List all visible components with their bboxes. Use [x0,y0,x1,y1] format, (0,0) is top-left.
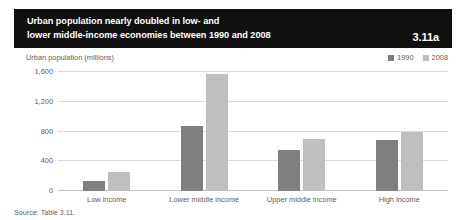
bar-1990 [181,126,203,191]
bar-groups [58,72,448,191]
x-axis-labels: Low incomeLower middle incomeUpper middl… [58,195,448,204]
figure-number: 3.11a [413,31,439,43]
y-axis-tick-label: 0 [49,186,53,195]
bar-2008 [206,74,228,192]
bar-group [156,72,254,191]
bar-group [58,72,156,191]
legend-label-2008: 2008 [432,53,448,62]
bar-chart: Urban population (millions) 1990 2008 04… [14,48,452,200]
y-axis-tick-label: 1,200 [35,96,54,105]
bar-group [253,72,351,191]
legend-swatch-1990 [388,55,394,61]
bar-1990 [376,140,398,191]
y-axis-tick-label: 1,600 [35,67,54,76]
legend-item-2008: 2008 [423,53,448,62]
source-note: Source: Table 3.11. [14,208,75,217]
figure-title-banner: Urban population nearly doubled in low- … [14,9,452,48]
x-axis-tick-label: Upper middle income [253,195,351,204]
chart-legend: 1990 2008 [388,53,448,62]
bar-2008 [108,172,130,191]
x-axis-tick-label: High income [351,195,449,204]
bar-2008 [401,132,423,192]
plot-area: 04008001,2001,600 [58,72,448,191]
legend-item-1990: 1990 [388,53,413,62]
y-axis-title: Urban population (millions) [26,53,114,62]
bar-2008 [303,139,325,191]
legend-label-1990: 1990 [397,53,413,62]
bar-1990 [83,181,105,191]
x-axis-tick-label: Lower middle income [156,195,254,204]
figure-title: Urban population nearly doubled in low- … [27,15,357,42]
bar-group [351,72,449,191]
x-axis-tick-label: Low income [58,195,156,204]
y-axis-tick-label: 400 [41,156,53,165]
legend-swatch-2008 [423,55,429,61]
clipped-text-strip [0,0,466,9]
bar-1990 [278,150,300,191]
y-axis-tick-label: 800 [41,126,53,135]
